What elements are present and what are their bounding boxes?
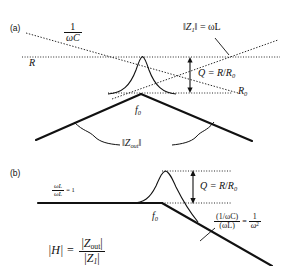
zout-asymptote-left <box>36 94 141 140</box>
resonance-peak-b <box>132 171 198 222</box>
r0-label: R0 <box>238 86 247 97</box>
z1-equals-wl-label: ‖Z1‖ = ωL <box>183 22 221 33</box>
q-label-a: Q = R/R0 <box>198 68 235 79</box>
rolloff-rhs-exponent: 2 <box>256 221 259 227</box>
rolloff-equals: = <box>242 217 247 226</box>
wl-ratio-numerator: ωL <box>52 183 64 190</box>
panel-a-label: (a) <box>10 24 20 33</box>
rolloff-numerator: (1/ωC) <box>214 213 240 221</box>
resonance-peak-a <box>108 57 176 95</box>
one-over-wc-label: 1 ωC <box>64 22 82 43</box>
q-arrow-a <box>187 57 192 93</box>
wl-ratio-equals: = 1 <box>66 186 75 193</box>
wl-over-wl-label: ωL ωL = 1 <box>52 183 75 197</box>
f0-label-b: f0 <box>152 211 158 222</box>
zout-leader-right <box>172 122 214 145</box>
zout-label: ‖Zout‖ <box>122 138 141 149</box>
z1-leader-line <box>215 38 229 55</box>
wl-asymptote <box>112 40 278 99</box>
q-arrow-b <box>190 170 195 204</box>
zout-asymptote-right <box>141 94 252 141</box>
zout-leader-left <box>74 122 120 145</box>
h-numerator-sub: out <box>90 242 100 251</box>
one-over-wc-numerator: 1 <box>64 22 82 32</box>
q-label-b: Q = R/R0 <box>200 181 237 192</box>
f0-label-a: f0 <box>135 105 141 116</box>
one-over-wc-denominator: ωC <box>64 32 82 43</box>
r-label: R <box>29 58 35 68</box>
rolloff-rhs-numerator: 1 <box>249 213 261 221</box>
wl-ratio-denominator: ωL <box>52 190 64 198</box>
one-over-wc-asymptote <box>26 33 238 93</box>
rolloff-formula: (1/ωC) (ωL) = 1 ω2 <box>214 213 261 231</box>
rolloff-denominator: (ωL) <box>214 221 240 230</box>
h-magnitude-lhs: |H| = <box>48 243 74 257</box>
transfer-function-formula: |H| = |Zout| |Z1| <box>48 237 105 266</box>
panel-b-label: (b) <box>10 169 20 178</box>
